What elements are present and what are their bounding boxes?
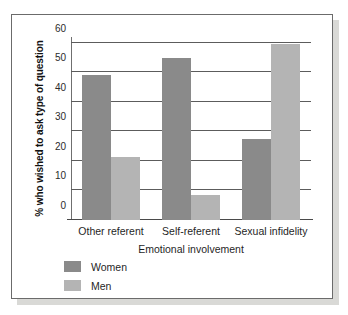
y-axis-line — [71, 37, 72, 220]
y-tick-label-60: 60 — [55, 24, 66, 34]
y-tick-label-50: 50 — [55, 54, 66, 64]
legend-item-women: Women — [64, 258, 127, 275]
y-axis-title-text: % who wished to ask type of question — [34, 40, 45, 216]
legend-swatch-women — [64, 261, 81, 272]
y-tick-label-0: 0 — [60, 201, 66, 211]
x-axis-title: Emotional involvement — [71, 243, 311, 255]
legend-label-women: Women — [91, 261, 127, 273]
y-axis-title: % who wished to ask type of question — [32, 37, 46, 220]
figure-frame: % who wished to ask type of question 010… — [11, 14, 333, 299]
y-tick-label-30: 30 — [55, 113, 66, 123]
y-tick-label-40: 40 — [55, 83, 66, 93]
bar-women-self-referent — [162, 58, 191, 220]
x-tick-label-sexual-infidelity: Sexual infidelity — [235, 225, 308, 237]
bar-men-self-referent — [191, 195, 220, 220]
legend-item-men: Men — [64, 277, 127, 294]
bar-men-other-referent — [111, 157, 140, 220]
legend-label-men: Men — [91, 280, 111, 292]
bar-women-other-referent — [82, 75, 111, 220]
bar-men-sexual-infidelity — [271, 44, 300, 220]
legend-swatch-men — [64, 280, 81, 291]
x-tick-label-other-referent: Other referent — [78, 225, 143, 237]
plot-area: 0102030405060 Other referentSelf-referen… — [71, 37, 311, 220]
bar-women-sexual-infidelity — [242, 139, 271, 220]
chart-legend: WomenMen — [64, 258, 127, 296]
x-tick-label-self-referent: Self-referent — [162, 225, 220, 237]
y-tick-label-10: 10 — [55, 172, 66, 182]
y-tick-label-20: 20 — [55, 142, 66, 152]
gridline-60 — [71, 42, 311, 43]
